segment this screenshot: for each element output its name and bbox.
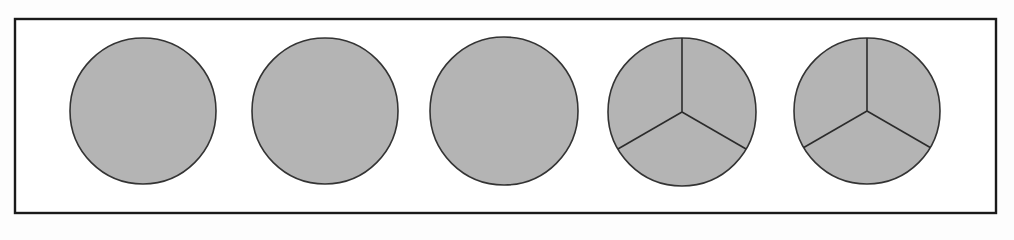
circle-outline [252,38,398,184]
figure-canvas [0,0,1014,240]
whole-circle [70,38,216,184]
divided-circle [794,38,940,184]
divided-circle [608,38,756,186]
whole-circle [252,38,398,184]
whole-circle [430,37,578,185]
circle-outline [430,37,578,185]
circle-outline [70,38,216,184]
figure-container [0,0,1014,240]
